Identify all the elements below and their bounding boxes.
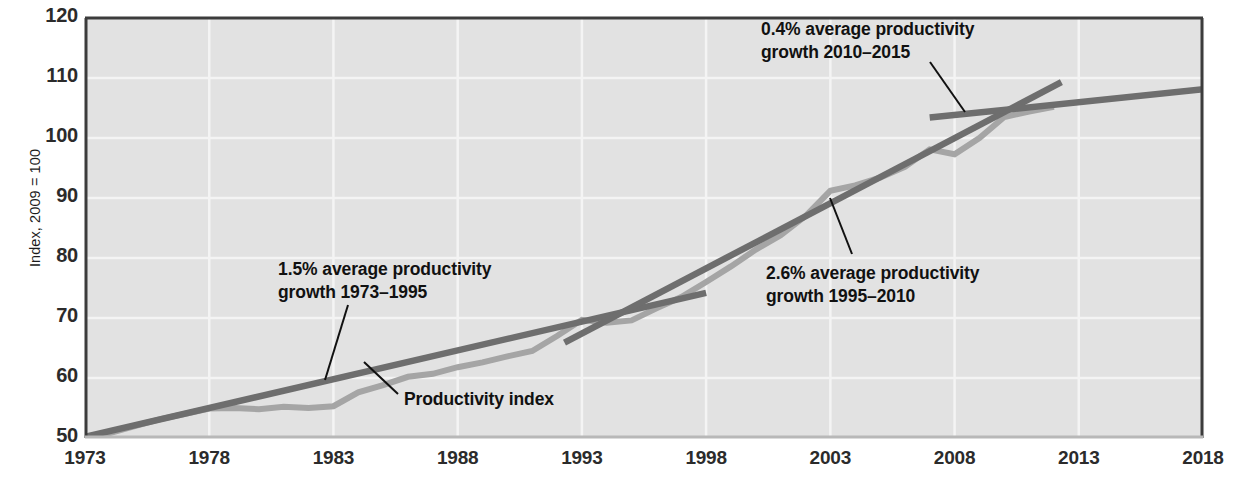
x-axis-tick-label: 2003 (795, 447, 865, 469)
plot-background (85, 18, 1203, 438)
x-axis-tick-label: 1993 (547, 447, 617, 469)
x-axis-tick-label: 2018 (1168, 447, 1238, 469)
annot-series-label: Productivity index (404, 388, 554, 411)
x-axis-tick-label: 2008 (920, 447, 990, 469)
x-axis-tick-label: 1988 (423, 447, 493, 469)
annot-2010-2015: 0.4% average productivity growth 2010–20… (761, 18, 974, 64)
x-axis-tick-label: 1973 (50, 447, 120, 469)
x-axis-tick-label: 1978 (174, 447, 244, 469)
annot-1995-2010: 2.6% average productivity growth 1995–20… (766, 262, 979, 308)
productivity-chart: Index, 2009 = 100 5060708090100110120 19… (0, 0, 1239, 480)
x-axis-tick-label: 2013 (1044, 447, 1114, 469)
annot-1973-1995: 1.5% average productivity growth 1973–19… (278, 258, 491, 304)
x-axis-tick-label: 1998 (671, 447, 741, 469)
plot-canvas (0, 0, 1239, 480)
x-axis-tick-label: 1983 (298, 447, 368, 469)
